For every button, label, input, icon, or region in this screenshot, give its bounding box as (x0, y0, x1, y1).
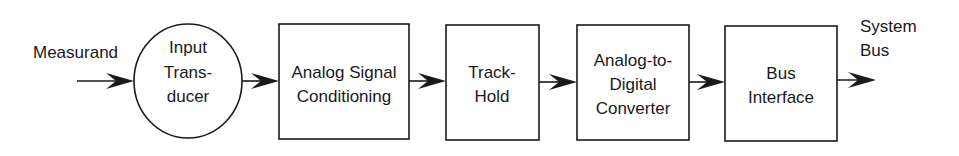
output-arrow (837, 72, 876, 88)
bus-interface-line-1: Bus (766, 64, 795, 83)
arrow-adc-to-bus-interface (689, 74, 725, 90)
block-analog-to-digital-converter: Analog-to- Digital Converter (577, 25, 689, 140)
measurand-label: Measurand (33, 43, 118, 62)
track-hold-line-1: Track- (468, 63, 516, 82)
data-acquisition-block-diagram: Measurand Input Trans- ducer Analog Sign… (0, 0, 959, 156)
bus-interface-line-2: Interface (748, 88, 814, 107)
input-transducer-line-2: Trans- (164, 63, 213, 82)
arrow-track-hold-to-adc (539, 74, 577, 90)
conditioning-line-1: Analog Signal (292, 63, 397, 82)
block-track-hold: Track- Hold (446, 25, 539, 140)
block-input-transducer: Input Trans- ducer (134, 24, 242, 138)
track-hold-line-2: Hold (475, 87, 510, 106)
block-bus-interface: Bus Interface (725, 26, 837, 141)
arrow-conditioning-to-track-hold (409, 73, 446, 89)
input-arrow (77, 73, 134, 89)
input-transducer-line-1: Input (169, 38, 207, 57)
system-bus-label-line-2: Bus (860, 41, 889, 60)
adc-line-3: Converter (596, 99, 671, 118)
adc-line-2: Digital (609, 75, 656, 94)
arrow-transducer-to-conditioning (242, 73, 279, 89)
conditioning-line-2: Conditioning (297, 87, 392, 106)
block-analog-signal-conditioning: Analog Signal Conditioning (279, 24, 409, 139)
system-bus-label-line-1: System (860, 17, 917, 36)
input-transducer-line-3: ducer (167, 87, 210, 106)
adc-line-1: Analog-to- (594, 51, 672, 70)
